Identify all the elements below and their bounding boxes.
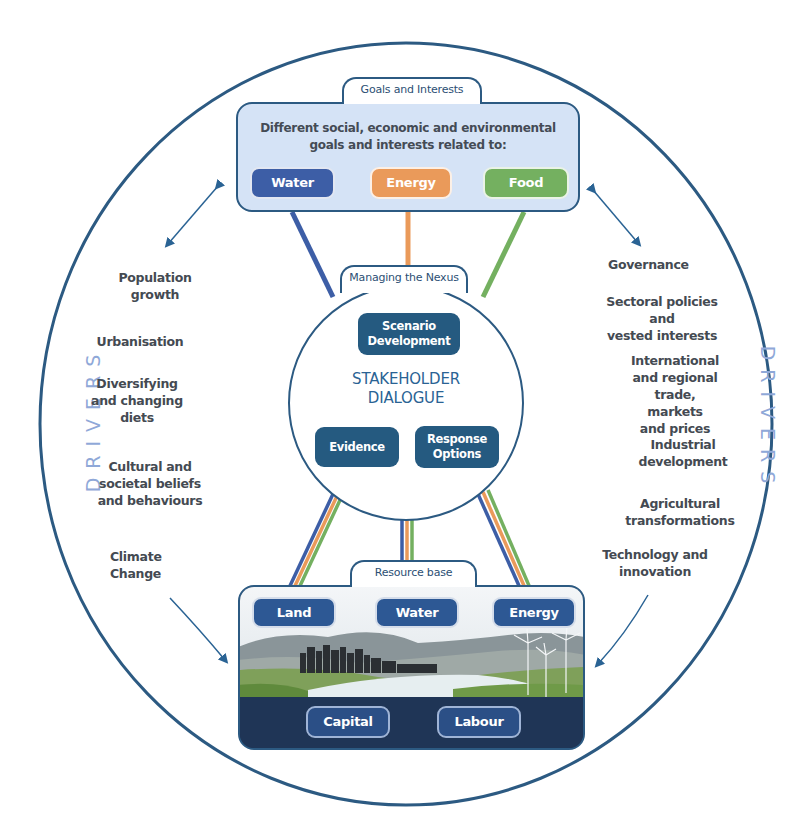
goals-description-line1: Different social, economic and environme… xyxy=(238,120,578,137)
resource-pill-labour-label: Labour xyxy=(454,714,503,729)
resource-pill-land: Land xyxy=(252,597,336,628)
driver-line: Change xyxy=(110,565,200,582)
driver-line: Sectoral policies and xyxy=(592,293,732,327)
right-triple-connector xyxy=(478,490,530,588)
driver-line: diets xyxy=(82,409,192,426)
driver-urbanisation: Urbanisation xyxy=(85,333,195,350)
driver-line: development xyxy=(633,453,733,470)
nexus-tab-label: Managing the Nexus xyxy=(349,271,458,284)
resource-pill-land-label: Land xyxy=(277,605,311,620)
food-connector xyxy=(483,212,524,297)
driver-line: Technology and xyxy=(600,546,710,563)
resource-pill-energy-label: Energy xyxy=(509,605,558,620)
middle-triple-connector xyxy=(402,517,412,560)
driver-technology-innovation: Technology and innovation xyxy=(600,546,710,580)
right-double-arrow xyxy=(593,190,638,243)
driver-climate-change: Climate Change xyxy=(110,548,200,582)
driver-line: growth xyxy=(100,286,210,303)
water-connector xyxy=(292,212,333,297)
driver-industrial-development: Industrial development xyxy=(633,436,733,470)
goal-pill-food-label: Food xyxy=(509,175,543,190)
driver-line: Diversifying xyxy=(82,375,192,392)
title-line1: STAKEHOLDER xyxy=(330,370,482,389)
resource-pill-energy: Energy xyxy=(492,597,576,628)
goals-tab: Goals and Interests xyxy=(342,77,482,104)
driver-line: International xyxy=(625,352,725,369)
driver-line: and prices xyxy=(625,420,725,437)
resource-pill-water-label: Water xyxy=(396,605,439,620)
goals-tab-label: Goals and Interests xyxy=(361,83,464,96)
scenario-line2: Development xyxy=(368,334,451,349)
driver-sectoral-policies: Sectoral policies and vested interests xyxy=(592,293,732,344)
goal-pill-water-label: Water xyxy=(271,175,314,190)
resource-pill-capital: Capital xyxy=(306,706,390,738)
driver-line: Agricultural xyxy=(620,495,740,512)
driver-governance: Governance xyxy=(598,256,708,273)
driver-line: Urbanisation xyxy=(85,333,195,350)
resource-tab: Resource base xyxy=(350,560,477,587)
goal-pill-food: Food xyxy=(483,167,569,199)
driver-line: trade, markets xyxy=(625,386,725,420)
driver-line: and behaviours xyxy=(90,492,210,509)
stakeholder-dialogue-title: STAKEHOLDER DIALOGUE xyxy=(330,370,482,408)
resource-pill-water: Water xyxy=(375,597,459,628)
driver-agricultural-transformations: Agricultural transformations xyxy=(620,495,740,529)
title-line2: DIALOGUE xyxy=(330,389,482,408)
drivers-label-right: DRIVERS xyxy=(757,346,779,493)
goals-description-line2: goals and interests related to: xyxy=(238,137,578,154)
response-line2: Options xyxy=(427,447,487,462)
resource-pill-labour: Labour xyxy=(437,706,521,738)
driver-population-growth: Population growth xyxy=(100,269,210,303)
left-double-arrow xyxy=(168,186,218,244)
driver-line: Population xyxy=(100,269,210,286)
driver-line: vested interests xyxy=(592,327,732,344)
left-triple-connector xyxy=(289,494,341,588)
evidence-box: Evidence xyxy=(315,427,399,467)
driver-international-trade: International and regional trade, market… xyxy=(625,352,725,437)
goal-pill-water: Water xyxy=(250,167,335,199)
driver-line: Industrial xyxy=(633,436,733,453)
scenario-line1: Scenario xyxy=(368,319,451,334)
driver-line: innovation xyxy=(600,563,710,580)
driver-line: transformations xyxy=(620,512,740,529)
response-line1: Response xyxy=(427,432,487,447)
resource-pill-capital-label: Capital xyxy=(323,714,372,729)
left-curved-arrow xyxy=(170,598,225,660)
goals-box: Different social, economic and environme… xyxy=(236,102,580,212)
response-options-box: Response Options xyxy=(415,426,499,468)
driver-line: Governance xyxy=(608,256,708,273)
driver-cultural-beliefs: Cultural and societal beliefs and behavi… xyxy=(90,458,210,509)
driver-diversifying-diets: Diversifying and changing diets xyxy=(82,375,192,426)
driver-line: societal beliefs xyxy=(90,475,210,492)
goal-pill-energy: Energy xyxy=(370,167,452,199)
goals-description: Different social, economic and environme… xyxy=(238,120,578,154)
drivers-label-right-text: DRIVERS xyxy=(757,346,779,493)
driver-line: Climate xyxy=(110,548,200,565)
resource-box: Land Water Energy Capital Labour xyxy=(238,585,585,750)
resource-tab-label: Resource base xyxy=(375,566,453,579)
right-curved-arrow xyxy=(598,595,648,664)
driver-line: and changing xyxy=(82,392,192,409)
driver-line: and regional xyxy=(625,369,725,386)
evidence-label: Evidence xyxy=(329,440,385,455)
goal-pill-energy-label: Energy xyxy=(386,175,435,190)
driver-line: Cultural and xyxy=(90,458,210,475)
nexus-tab: Managing the Nexus xyxy=(340,265,468,293)
scenario-development-box: Scenario Development xyxy=(358,313,460,355)
